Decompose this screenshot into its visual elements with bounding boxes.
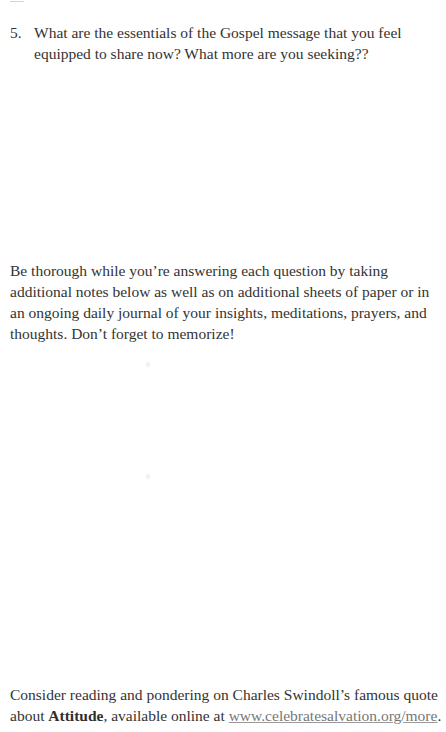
attitude-bold: Attitude — [48, 707, 103, 724]
celebrate-salvation-link[interactable]: www.celebratesalvation.org/more — [229, 707, 438, 724]
scan-artifact — [146, 474, 150, 479]
question-5: 5. What are the essentials of the Gospel… — [10, 22, 440, 64]
footer-text-middle: , available online at — [103, 707, 228, 724]
question-number: 5. — [10, 22, 34, 64]
footer-text-after: . — [437, 707, 441, 724]
page-number-mark — [10, 0, 24, 2]
scan-artifact — [146, 362, 150, 367]
instructions-paragraph: Be thorough while you’re answering each … — [10, 260, 446, 344]
question-text: What are the essentials of the Gospel me… — [34, 22, 440, 64]
footer-paragraph: Consider reading and pondering on Charle… — [10, 684, 446, 726]
